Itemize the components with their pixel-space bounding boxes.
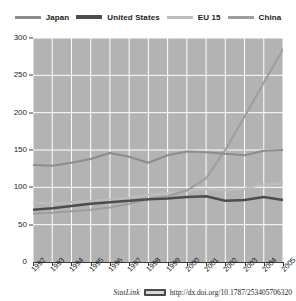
- y-tick-label: 100: [14, 183, 27, 191]
- y-tick-label: 150: [14, 146, 27, 154]
- legend-item-china[interactable]: China: [228, 13, 282, 22]
- legend-item-united-states[interactable]: United States: [76, 13, 159, 22]
- chart-page: Japan United States EU 15 China 05010015…: [0, 0, 296, 301]
- chart-footer: StatLink http://dx.doi.org/10.1787/25340…: [0, 285, 296, 299]
- doi-url[interactable]: http://dx.doi.org/10.1787/253405706320: [170, 288, 292, 297]
- statlink-logo-icon: [144, 289, 166, 296]
- legend-label-china: China: [259, 13, 282, 22]
- legend-label-japan: Japan: [46, 13, 70, 22]
- gridlines: [33, 38, 283, 262]
- plot-area: [33, 38, 283, 262]
- legend-swatch-united-states: [76, 15, 102, 19]
- legend-item-eu-15[interactable]: EU 15: [167, 13, 221, 22]
- chart-lines: [33, 38, 283, 262]
- y-tick-label: 250: [14, 71, 27, 79]
- statlink-label: StatLink: [113, 288, 140, 297]
- legend-label-eu-15: EU 15: [198, 13, 221, 22]
- y-axis: 050100150200250300: [0, 38, 33, 262]
- y-tick-label: 0: [23, 258, 27, 266]
- chart-legend: Japan United States EU 15 China: [0, 6, 296, 28]
- y-tick-label: 200: [14, 109, 27, 117]
- series-line-japan: [33, 150, 283, 166]
- legend-swatch-eu-15: [167, 16, 193, 19]
- y-tick-label: 50: [18, 221, 27, 229]
- legend-swatch-japan: [15, 16, 41, 19]
- legend-swatch-china: [228, 16, 254, 19]
- legend-label-united-states: United States: [107, 13, 159, 22]
- y-tick-label: 300: [14, 34, 27, 42]
- legend-item-japan[interactable]: Japan: [15, 13, 70, 22]
